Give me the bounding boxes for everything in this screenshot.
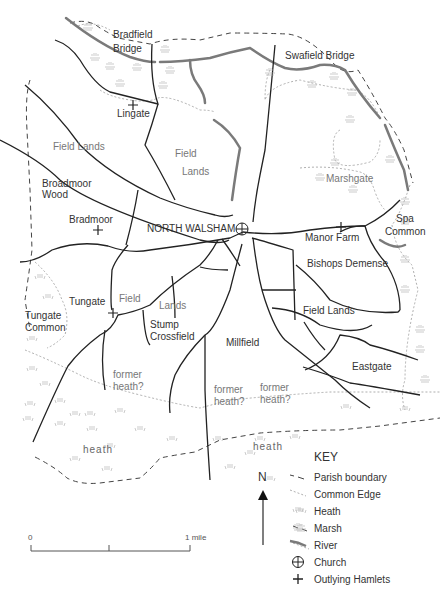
- key-title: KEY: [314, 450, 338, 464]
- label-stump-crossfield: Crossfield: [150, 331, 194, 343]
- hamlet-plus-icon: [336, 222, 346, 232]
- label-field-sw: Field: [119, 293, 141, 305]
- marsh-key-icon: [293, 523, 303, 530]
- label-heath-west: heath: [83, 444, 113, 456]
- label-lingate: Lingate: [117, 108, 150, 120]
- label-former-heath-2: former: [214, 384, 243, 396]
- label-tungate: Tungate: [69, 296, 105, 308]
- label-field-lands-east: Field Lands: [303, 305, 355, 317]
- label-bradmoor: Bradmoor: [69, 214, 113, 226]
- river-key-icon: [290, 541, 306, 546]
- marsh-symbols: [83, 23, 430, 382]
- label-former-heath-1: former: [113, 369, 142, 381]
- key-item-marsh: Marsh: [314, 523, 342, 535]
- church-icon: [236, 223, 248, 235]
- hamlet-plus-icon: [108, 308, 118, 318]
- label-field-center: Field: [175, 148, 197, 160]
- label-lands-center: Lands: [182, 166, 209, 178]
- scale-start-label: 0: [28, 533, 32, 542]
- label-former-heath-2b: heath?: [214, 396, 245, 408]
- label-bradfield-bridge-1: Bradfield: [113, 29, 152, 41]
- label-eastgate: Eastgate: [352, 361, 391, 373]
- label-broadmoor-wood: Wood: [42, 189, 68, 201]
- hamlet-plus-icon: [93, 225, 103, 235]
- label-bradfield-bridge-2: Bridge: [113, 43, 142, 55]
- north-label: N: [258, 470, 267, 484]
- label-spa: Spa: [396, 213, 414, 225]
- label-millfield: Millfield: [226, 337, 259, 349]
- label-former-heath-3: former: [260, 382, 289, 394]
- scale-end-label: 1 mile: [185, 533, 206, 542]
- label-former-heath-3b: heath?: [260, 394, 291, 406]
- label-field-lands-west: Field Lands: [53, 141, 105, 153]
- label-heath-east: heath: [253, 441, 283, 453]
- common-edge-key-icon: [290, 490, 306, 496]
- label-marshgate: Marshgate: [326, 173, 373, 185]
- hamlet-key-icon: [293, 574, 303, 584]
- label-lands-sw: Lands: [159, 300, 186, 312]
- key-item-river: River: [314, 540, 337, 552]
- label-tungate-common-2: Common: [25, 322, 66, 334]
- label-bishops-demense: Bishops Demense: [307, 258, 388, 270]
- label-manor-farm: Manor Farm: [305, 232, 359, 244]
- parish-map: [0, 0, 447, 601]
- key-item-outlying-hamlets: Outlying Hamlets: [314, 574, 390, 586]
- north-arrow-icon: [258, 490, 268, 545]
- church-key-icon: [293, 557, 304, 568]
- hamlet-markers: [93, 100, 346, 318]
- key-item-parish-boundary: Parish boundary: [314, 472, 387, 484]
- parish-boundary-key-icon: [290, 475, 304, 479]
- heath-key-icon: [293, 507, 303, 512]
- label-swafield-bridge: Swafield Bridge: [285, 50, 354, 62]
- scale-bar: [31, 545, 190, 551]
- label-tungate-common: Tungate: [25, 310, 61, 322]
- label-north-walsham: NORTH WALSHAM: [147, 223, 235, 235]
- label-stump: Stump: [150, 319, 179, 331]
- key-item-church: Church: [314, 557, 346, 569]
- label-spa-common: Common: [385, 226, 426, 238]
- label-former-heath-1b: heath?: [113, 381, 144, 393]
- key-symbol-column: [288, 470, 314, 590]
- key-item-common-edge: Common Edge: [314, 489, 381, 501]
- key-item-heath: Heath: [314, 506, 341, 518]
